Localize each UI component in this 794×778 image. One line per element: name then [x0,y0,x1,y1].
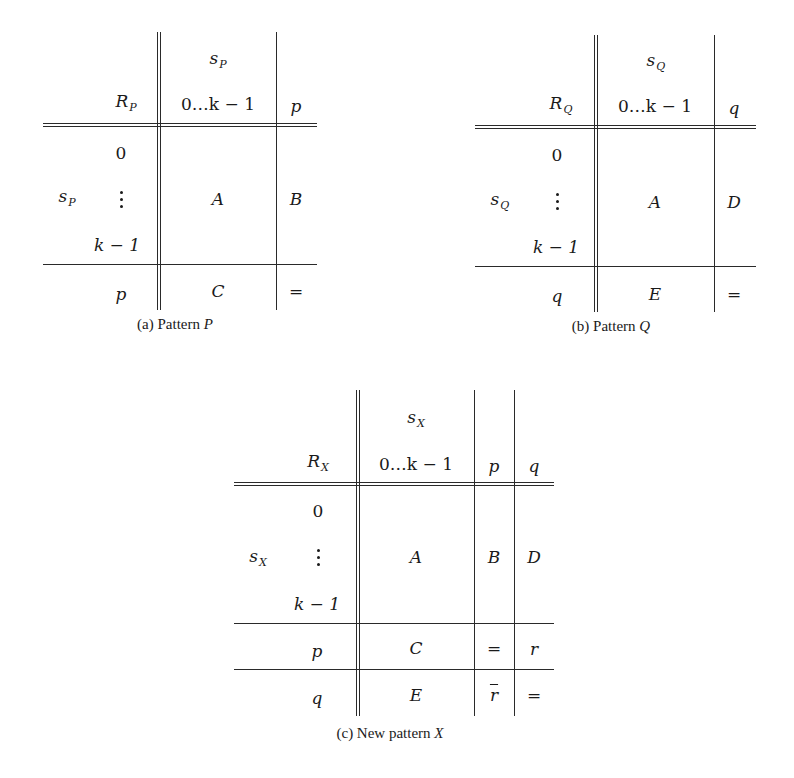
row-label-first: 0 [313,501,324,521]
row-label-last: k − 1 [94,235,140,255]
cell-right-q: D [527,547,541,567]
double-vline-left [356,390,357,716]
col-extra-label-p: p [489,456,500,476]
cell-right-p: B [488,547,501,567]
vline-q [514,390,515,716]
double-hline-top [234,482,554,483]
double-hline-bottom [475,128,756,129]
row-label-first: 0 [116,143,127,163]
row-extra-label: p [116,284,127,304]
vertical-ellipsis-icon [119,191,123,211]
cell-bottom: E [649,284,661,304]
cell-bottom-q: E [410,685,422,705]
row-extra-label-p: p [312,641,323,661]
row-extra-label: q [552,286,563,306]
hline-q [234,669,554,670]
hline [475,266,756,267]
row-label-last: k − 1 [294,594,340,614]
caption: (b) Pattern Q [572,318,650,335]
cell-corner: = [727,284,741,304]
double-vline-right [597,35,598,312]
cell-qq: = [527,685,541,705]
cell-main: A [649,192,661,212]
vline-p [474,390,475,716]
row-group-label: sX [249,546,267,573]
row-extra-label-q: q [312,688,323,708]
caption: (c) New pattern X [336,725,443,742]
col-range-label: 0…k − 1 [181,94,255,114]
double-vline-left [594,35,595,312]
vertical-ellipsis-icon [555,193,559,213]
cell-main: A [212,189,224,209]
cell-main: A [410,547,422,567]
cell-corner: = [289,281,303,301]
col-extra-label: p [291,96,302,116]
vline [714,35,715,312]
cell-bottom-p: C [409,638,422,658]
col-range-label: 0…k − 1 [379,454,453,474]
col-group-label: sX [407,407,425,434]
cell-right: D [727,192,741,212]
double-hline-top [43,123,317,124]
vertical-ellipsis-icon [316,549,320,569]
col-range-label: 0…k − 1 [618,96,692,116]
col-extra-label: q [729,98,740,118]
double-vline-right [359,390,360,716]
double-hline-bottom [234,485,554,486]
hline-p [234,623,554,624]
cell-pp: = [487,638,501,658]
cell-bottom: C [211,281,224,301]
row-label-first: 0 [552,145,563,165]
col-extra-label-q: q [529,456,540,476]
corner-label: RX [307,451,329,478]
col-group-label: sP [209,48,226,75]
row-label-last: k − 1 [533,237,579,257]
cell-qp: r [490,685,498,705]
cell-right: B [290,189,303,209]
vline [276,32,277,310]
corner-label: RQ [550,93,573,120]
caption: (a) Pattern P [137,316,213,333]
double-vline-right [160,32,161,310]
double-vline-left [157,32,158,310]
cell-pq: r [530,639,538,659]
double-hline-bottom [43,126,317,127]
double-hline-top [475,125,756,126]
row-group-label: sQ [491,189,510,216]
corner-label: RP [115,91,136,118]
hline [43,264,317,265]
col-group-label: sQ [647,50,666,77]
row-group-label: sP [58,186,75,213]
